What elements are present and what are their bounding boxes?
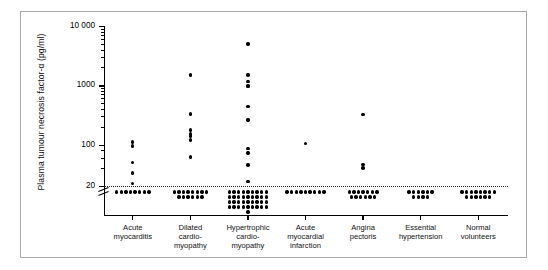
data-point-above-threshold [246,147,249,150]
data-point-below-threshold [488,195,491,198]
data-point-below-threshold [368,195,371,198]
data-point-below-threshold [242,205,245,208]
data-point-below-threshold [265,195,268,198]
figure-container: Plasma tumour necrosis factor-α (pg/ml) … [0,0,548,270]
x-axis-category-label: Dilated cardio- myopathy [162,224,220,250]
data-point-below-threshold [371,190,374,193]
data-point-below-threshold [191,195,194,198]
data-point-below-threshold [242,195,245,198]
data-point-below-threshold [470,195,473,198]
data-point-above-threshold [131,144,134,147]
data-point-below-threshold [200,195,203,198]
data-point-below-threshold [375,190,378,193]
data-point-below-threshold [228,190,231,193]
data-point-below-threshold [228,195,231,198]
data-point-below-threshold [205,190,208,193]
data-point-below-threshold [348,190,351,193]
data-point-below-threshold [138,190,141,193]
data-point-below-threshold [242,190,245,193]
data-point-below-threshold [228,205,231,208]
data-point-below-threshold [265,205,268,208]
x-axis-tick [478,216,479,220]
data-point-below-threshold [304,190,307,193]
x-axis-category-label: Essential hypertension [392,224,450,242]
data-point-above-threshold [246,80,249,83]
data-point-above-threshold [131,182,134,185]
data-point-above-threshold [361,113,364,116]
y-axis-title: Plasma tumour necrosis factor-α (pg/ml) [36,12,46,212]
data-point-below-threshold [465,190,468,193]
data-point-below-threshold [412,195,415,198]
data-point-below-threshold [308,190,311,193]
data-point-below-threshold [493,190,496,193]
data-point-below-threshold [465,195,468,198]
data-point-below-threshold [426,195,429,198]
x-axis-tick [305,216,306,220]
data-point-below-threshold [479,195,482,198]
data-point-below-threshold [237,195,240,198]
data-point-below-threshold [265,200,268,203]
data-point-above-threshold [246,85,249,88]
data-point-below-threshold [483,190,486,193]
data-point-below-threshold [313,190,316,193]
x-axis-tick [190,216,191,220]
x-axis-category-label: Acute myocarditis [104,224,162,242]
data-point-below-threshold [295,190,298,193]
data-point-above-threshold [189,128,192,131]
data-point-below-threshold [129,190,132,193]
data-point-below-threshold [246,195,249,198]
y-axis-tick-label: 100 [81,140,95,149]
data-point-above-threshold [189,155,192,158]
data-point-below-threshold [350,195,353,198]
data-point-below-threshold [124,190,127,193]
data-point-above-threshold [189,138,192,141]
data-point-below-threshold [366,190,369,193]
data-point-below-threshold [260,200,263,203]
data-point-below-threshold [232,200,235,203]
data-point-above-threshold [246,42,249,45]
data-point-below-threshold [143,190,146,193]
data-point-below-threshold [177,195,180,198]
data-point-below-threshold [200,190,203,193]
data-point-below-threshold [470,190,473,193]
data-point-below-threshold [251,190,254,193]
data-point-below-threshold [255,195,258,198]
data-point-above-threshold [131,171,134,174]
x-axis-tick [247,216,248,220]
data-point-below-threshold [430,190,433,193]
data-point-below-threshold [237,200,240,203]
data-point-below-threshold [318,190,321,193]
data-point-below-threshold [488,190,491,193]
scatter-plot-area [104,26,507,215]
data-point-above-threshold [246,118,249,121]
data-point-below-threshold [260,195,263,198]
data-point-below-threshold [115,190,118,193]
data-point-below-threshold [246,205,249,208]
data-point-below-threshold [426,190,429,193]
data-point-below-threshold [120,190,123,193]
data-point-below-threshold [322,190,325,193]
data-point-below-threshold [186,190,189,193]
data-point-below-threshold [191,190,194,193]
data-point-below-threshold [421,190,424,193]
data-point-below-threshold [417,195,420,198]
data-point-above-threshold [246,163,249,166]
x-axis-category-label: Normal volunteers [449,224,507,242]
data-point-below-threshold [255,200,258,203]
data-point-below-threshold [232,190,235,193]
data-point-below-threshold [474,190,477,193]
data-point-below-threshold [242,200,245,203]
data-point-above-threshold [246,73,249,76]
data-point-below-threshold [246,200,249,203]
data-point-below-threshold [251,205,254,208]
data-point-above-threshold [189,112,192,115]
data-point-below-threshold [232,195,235,198]
x-axis-tick [362,216,363,220]
data-point-below-threshold [354,195,357,198]
x-axis-tick [132,216,133,220]
data-point-below-threshold [246,210,249,213]
data-point-below-threshold [460,190,463,193]
data-point-below-threshold [196,190,199,193]
data-point-below-threshold [479,190,482,193]
data-point-above-threshold [189,134,192,137]
